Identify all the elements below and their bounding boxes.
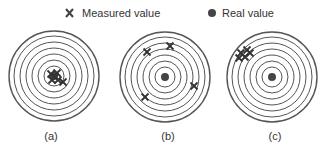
- measured-value-x-mark: [142, 94, 149, 101]
- accuracy-precision-diagram: Measured value Real value (a) (b) (c): [0, 0, 330, 151]
- legend-measured-label: Measured value: [82, 7, 160, 19]
- target-b: [120, 32, 210, 122]
- target-c: [227, 32, 317, 122]
- target-a: [9, 31, 99, 121]
- targets-group: [9, 31, 317, 122]
- real-value-dot: [161, 73, 169, 81]
- filled-dot-icon: [208, 9, 216, 17]
- panel-label-a: (a): [44, 130, 57, 142]
- panel-label-c: (c): [269, 130, 282, 142]
- x-mark-icon: [66, 9, 73, 17]
- legend-real-label: Real value: [222, 7, 274, 19]
- panel-label-b: (b): [161, 130, 174, 142]
- real-value-dot: [268, 73, 276, 81]
- legend: Measured value Real value: [66, 7, 274, 19]
- measured-value-x-mark: [144, 49, 151, 56]
